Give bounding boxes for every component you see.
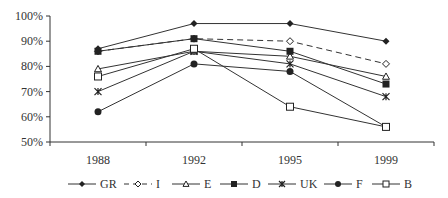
series-gr <box>95 20 390 52</box>
x-tick-label: 1995 <box>278 153 302 167</box>
y-tick-label: 50% <box>21 135 43 149</box>
legend-label: UK <box>300 177 318 191</box>
legend-label: F <box>356 177 363 191</box>
circle-marker <box>95 108 102 115</box>
open-square-marker <box>383 181 389 187</box>
series-i <box>95 35 390 67</box>
open-diamond-marker <box>287 38 294 45</box>
x-tick-label: 1988 <box>86 153 110 167</box>
series-lines <box>95 20 390 130</box>
star-marker <box>383 93 390 100</box>
diamond-marker <box>287 20 294 27</box>
square-marker <box>231 181 237 187</box>
square-marker <box>287 48 294 55</box>
series-f <box>95 60 390 130</box>
y-tick-label: 80% <box>21 59 43 73</box>
legend: GRIEDUKFB <box>68 177 412 191</box>
legend-label: D <box>252 177 261 191</box>
circle-marker <box>335 181 341 187</box>
diamond-marker <box>191 20 198 27</box>
open-square-marker <box>191 45 198 52</box>
y-tick-label: 60% <box>21 110 43 124</box>
diamond-marker <box>383 38 390 45</box>
square-marker <box>383 81 390 88</box>
series-uk <box>95 48 390 100</box>
y-tick-label: 70% <box>21 85 43 99</box>
legend-item-b: B <box>372 177 412 191</box>
circle-marker <box>191 60 198 67</box>
open-square-marker <box>287 103 294 110</box>
y-tick-label: 90% <box>21 34 43 48</box>
star-marker <box>95 88 102 95</box>
x-tick-label: 1992 <box>182 153 206 167</box>
diamond-marker <box>79 181 85 187</box>
legend-item-d: D <box>220 177 261 191</box>
x-tick-label: 1999 <box>374 153 398 167</box>
series-line <box>98 39 386 64</box>
legend-item-e: E <box>172 177 211 191</box>
y-tick-label: 100% <box>15 9 43 23</box>
legend-item-uk: UK <box>268 177 318 191</box>
open-diamond-marker <box>135 181 141 187</box>
square-marker <box>95 48 102 55</box>
legend-label: E <box>204 177 211 191</box>
open-square-marker <box>383 123 390 130</box>
square-marker <box>191 35 198 42</box>
circle-marker <box>287 68 294 75</box>
legend-label: GR <box>100 177 117 191</box>
line-chart: 50%60%70%80%90%100%1988199219951999 GRIE… <box>0 0 448 198</box>
legend-label: B <box>404 177 412 191</box>
legend-item-f: F <box>324 177 363 191</box>
legend-item-i: I <box>124 177 160 191</box>
open-diamond-marker <box>383 60 390 67</box>
legend-label: I <box>156 177 160 191</box>
axes: 50%60%70%80%90%100%1988199219951999 <box>15 9 434 167</box>
legend-item-gr: GR <box>68 177 117 191</box>
open-square-marker <box>95 73 102 80</box>
